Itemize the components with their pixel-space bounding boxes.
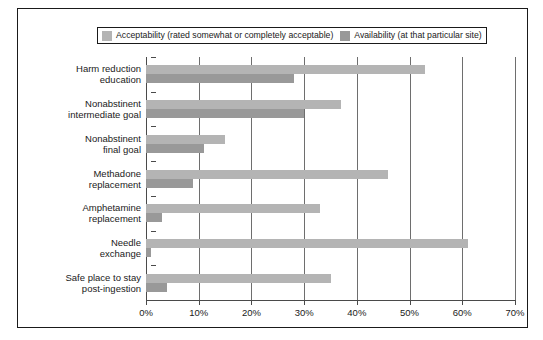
category-label-line: Harm reduction (31, 63, 141, 74)
legend-entry-availability: Availability (at that particular site) (340, 31, 481, 41)
legend-label-acceptability: Acceptability (rated somewhat or complet… (116, 31, 333, 40)
bar-availability (146, 213, 162, 222)
x-tick-label: 10% (189, 307, 208, 318)
x-tick (357, 300, 358, 305)
category-label-line: education (31, 74, 141, 85)
bar-acceptability (146, 170, 388, 179)
category-label-line: replacement (31, 213, 141, 224)
bar-acceptability (146, 239, 468, 248)
category-label: Nonabstinentintermediate goal (31, 98, 141, 120)
bar-group (146, 239, 515, 257)
x-tick (410, 300, 411, 305)
x-tick-label: 70% (505, 307, 524, 318)
category-axis-labels: Harm reductioneducationNonabstinentinter… (28, 57, 141, 300)
bar-group (146, 274, 515, 292)
x-tick-label: 40% (347, 307, 366, 318)
bar-availability (146, 74, 294, 83)
bar-group (146, 135, 515, 153)
x-tick (515, 300, 516, 305)
category-label-line: Needle (31, 237, 141, 248)
category-label-line: replacement (31, 179, 141, 190)
category-label: Nonabstinentfinal goal (31, 133, 141, 155)
category-label: Methadonereplacement (31, 168, 141, 190)
plot-area (146, 57, 515, 300)
bar-availability (146, 179, 193, 188)
x-tick-label: 20% (242, 307, 261, 318)
bar-availability (146, 248, 151, 257)
legend-swatch-availability (340, 31, 350, 41)
category-label-line: Nonabstinent (31, 98, 141, 109)
x-tick (251, 300, 252, 305)
category-label: Amphetaminereplacement (31, 202, 141, 224)
category-label: Harm reductioneducation (31, 63, 141, 85)
x-tick-label: 30% (295, 307, 314, 318)
category-label-line: exchange (31, 248, 141, 259)
bar-availability (146, 144, 204, 153)
bar-acceptability (146, 100, 341, 109)
gridline (515, 57, 516, 300)
category-label: Safe place to staypost-ingestion (31, 272, 141, 294)
bar-acceptability (146, 65, 425, 74)
x-tick (304, 300, 305, 305)
bar-group (146, 170, 515, 188)
bar-group (146, 100, 515, 118)
category-label-line: intermediate goal (31, 109, 141, 120)
bar-group (146, 65, 515, 83)
x-tick (199, 300, 200, 305)
category-label-line: Nonabstinent (31, 133, 141, 144)
legend-swatch-acceptability (102, 31, 112, 41)
category-label-line: Methadone (31, 168, 141, 179)
bar-availability (146, 283, 167, 292)
bar-acceptability (146, 135, 225, 144)
x-tick (462, 300, 463, 305)
legend-entry-acceptability: Acceptability (rated somewhat or complet… (102, 31, 333, 41)
x-tick-label: 50% (400, 307, 419, 318)
category-label-line: post-ingestion (31, 283, 141, 294)
x-tick-label: 60% (453, 307, 472, 318)
x-tick (146, 300, 147, 305)
x-tick-label: 0% (139, 307, 153, 318)
chart-figure: Acceptability (rated somewhat or complet… (17, 8, 528, 328)
bar-acceptability (146, 274, 331, 283)
x-axis-line (146, 300, 515, 301)
category-label-line: final goal (31, 144, 141, 155)
category-label-line: Safe place to stay (31, 272, 141, 283)
bar-group (146, 204, 515, 222)
bar-availability (146, 109, 304, 118)
category-label: Needleexchange (31, 237, 141, 259)
bar-acceptability (146, 204, 320, 213)
legend-label-availability: Availability (at that particular site) (354, 31, 481, 40)
category-label-line: Amphetamine (31, 202, 141, 213)
chart-legend: Acceptability (rated somewhat or complet… (97, 27, 487, 44)
